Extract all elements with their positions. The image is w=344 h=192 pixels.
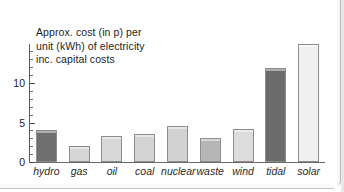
bar-series bbox=[30, 0, 325, 162]
y-axis-labels: 0510 bbox=[0, 0, 25, 186]
bar-top-highlight bbox=[266, 69, 285, 71]
y-axis-tick-label: 5 bbox=[1, 117, 25, 129]
bar-wind bbox=[233, 129, 254, 162]
bar-top-highlight bbox=[37, 131, 56, 133]
y-axis-tick-label: 0 bbox=[1, 156, 25, 168]
category-label-wind: wind bbox=[227, 165, 260, 177]
y-axis-tick-label: 10 bbox=[1, 77, 25, 89]
bar-chart: Approx. cost (in p) per unit (kWh) of el… bbox=[0, 0, 330, 186]
bar-tidal bbox=[265, 68, 286, 162]
category-label-waste: waste bbox=[194, 165, 227, 177]
bar-hydro bbox=[36, 130, 57, 162]
category-label-nuclear: nuclear bbox=[161, 165, 194, 177]
category-label-gas: gas bbox=[63, 165, 96, 177]
bar-waste bbox=[200, 138, 221, 162]
scanned-page-card: Approx. cost (in p) per unit (kWh) of el… bbox=[0, 0, 344, 192]
category-label-oil: oil bbox=[96, 165, 129, 177]
bar-top-highlight bbox=[70, 147, 89, 149]
y-axis-major-tick bbox=[30, 162, 35, 163]
bar-top-highlight bbox=[168, 127, 187, 129]
category-label-solar: solar bbox=[292, 165, 325, 177]
bar-solar bbox=[298, 44, 319, 163]
bar-top-highlight bbox=[102, 137, 121, 139]
category-label-hydro: hydro bbox=[30, 165, 63, 177]
bar-nuclear bbox=[167, 126, 188, 162]
category-label-tidal: tidal bbox=[259, 165, 292, 177]
bar-top-highlight bbox=[234, 130, 253, 132]
bar-top-highlight bbox=[299, 45, 318, 47]
bar-top-highlight bbox=[201, 139, 220, 141]
bar-oil bbox=[101, 136, 122, 162]
category-label-coal: coal bbox=[128, 165, 161, 177]
bar-coal bbox=[134, 134, 155, 162]
bar-top-highlight bbox=[135, 135, 154, 137]
bar-gas bbox=[69, 146, 90, 162]
x-axis-category-labels: hydrogasoilcoalnuclearwastewindtidalsola… bbox=[30, 165, 325, 183]
page-edge-bottom bbox=[0, 184, 334, 189]
x-axis-line bbox=[29, 162, 325, 163]
